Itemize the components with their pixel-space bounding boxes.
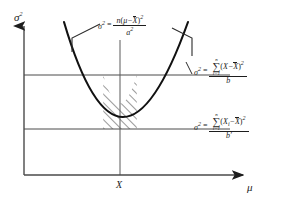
equation-right-upper-denominator: b xyxy=(223,77,233,85)
equation-right-upper-fraction: n∑i=1(X−X)2 b xyxy=(209,57,246,85)
equation-right-upper-lhs: σ2 xyxy=(194,66,201,77)
equation-right-upper-numerator: n∑i=1(X−X)2 xyxy=(209,57,246,76)
equation-right-upper: σ2 = n∑i=1(X−X)2 b xyxy=(194,57,247,85)
equation-right-lower: σ2 = n∑i=1(Xi−X)2 b′ xyxy=(194,112,249,140)
leader-line-left xyxy=(72,24,100,52)
leader-stub-upper xyxy=(186,62,192,74)
leader-line-right xyxy=(172,28,192,56)
figure-root: σ2 μ X σ2 = n(μ−X)2 a2 σ2 = n∑i=1(X−X)2 … xyxy=(0,0,293,203)
equation-top-fraction: n(μ−X)2 a2 xyxy=(113,14,146,36)
equation-right-lower-denominator: b′ xyxy=(223,132,235,140)
equation-right-lower-fraction: n∑i=1(Xi−X)2 b′ xyxy=(209,112,248,140)
figure-canvas xyxy=(0,0,293,203)
x-axis-tick-label: X xyxy=(116,180,122,190)
equation-top: σ2 = n(μ−X)2 a2 xyxy=(98,14,146,36)
equation-right-lower-numerator: n∑i=1(Xi−X)2 xyxy=(209,112,248,131)
equation-top-equals: = xyxy=(107,21,112,29)
equation-top-numerator: n(μ−X)2 xyxy=(113,14,146,25)
summation-symbol: n∑i=1 xyxy=(212,57,220,76)
y-axis-label: σ2 xyxy=(14,11,22,23)
equation-right-upper-equals: = xyxy=(203,67,208,75)
x-axis-label: μ xyxy=(247,182,253,193)
equation-right-lower-equals: = xyxy=(203,122,208,130)
summation-symbol: n∑i=1 xyxy=(212,112,220,131)
equation-top-denominator: a2 xyxy=(123,26,136,37)
equation-right-lower-lhs: σ2 xyxy=(194,121,201,132)
equation-top-lhs: σ2 xyxy=(98,20,105,31)
